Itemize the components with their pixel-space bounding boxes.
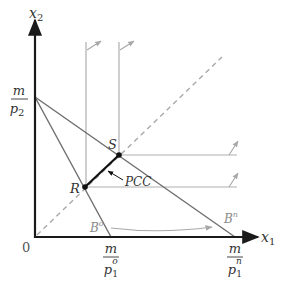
y-intercept-label: m p2 [10, 83, 28, 118]
budget-line-old [35, 97, 111, 237]
price-consumption-curve [85, 155, 119, 187]
svg-text:m: m [13, 83, 25, 98]
preference-arrow-icon [229, 173, 238, 187]
svg-text:m: m [105, 241, 117, 256]
svg-text:1: 1 [112, 269, 118, 279]
point-S [116, 152, 122, 158]
origin-label: 0 [22, 240, 30, 255]
x-intercept-old-label: m p o 1 [103, 241, 119, 279]
budget-new-label: Bn [223, 210, 238, 226]
x-intercept-new-label: m p n 1 [227, 241, 243, 279]
svg-text:m: m [229, 241, 241, 256]
x-axis-label: x1 [261, 229, 275, 247]
preference-arrow-icon [229, 141, 238, 155]
point-R [82, 184, 88, 190]
svg-text:n: n [236, 256, 242, 266]
svg-text:o: o [112, 256, 118, 266]
point-R-label: R [69, 181, 80, 196]
pcc-pointer-arrow-icon [108, 171, 123, 180]
point-S-label: S [108, 137, 117, 152]
budget-line-new [35, 97, 235, 237]
diagram-canvas: x2 x1 0 m p2 m p o 1 m p n 1 R S PCC Bo … [0, 0, 283, 284]
svg-text:p2: p2 [10, 101, 25, 118]
pcc-label: PCC [124, 175, 151, 189]
y-axis-label: x2 [29, 5, 43, 23]
budget-old-label: Bo [89, 219, 104, 235]
budget-rotation-arrow-icon [111, 227, 212, 231]
preference-arrow-icon [120, 41, 134, 50]
svg-text:1: 1 [236, 269, 242, 279]
preference-arrow-icon [87, 41, 101, 50]
